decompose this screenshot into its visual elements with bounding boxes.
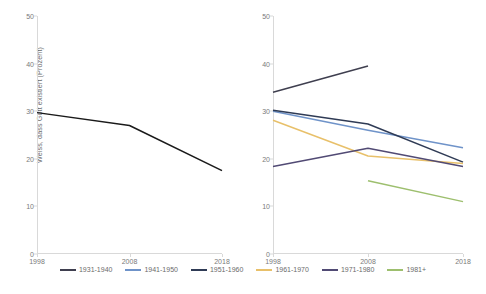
legend-label: 1951-1960	[210, 266, 243, 273]
legend-swatch-icon	[387, 269, 403, 271]
legend-item[interactable]: 1931-1940	[60, 266, 112, 273]
legend-item[interactable]: 1981+	[387, 266, 426, 273]
legend-item[interactable]: 1961-1970	[256, 266, 308, 273]
series-line	[273, 110, 463, 162]
y-tick-label: 40	[262, 60, 270, 67]
legend-label: 1941-1950	[144, 266, 177, 273]
x-tick-label: 1998	[29, 258, 45, 265]
chart-panel-left: Weiss, dass Gott existiert (Prozent) 010…	[0, 0, 243, 262]
y-tick-label: 50	[262, 13, 270, 20]
x-tick-mark	[273, 254, 274, 257]
chart-figure: Weiss, dass Gott existiert (Prozent) 010…	[0, 0, 486, 294]
x-tick-label: 2008	[122, 258, 138, 265]
y-tick-label: 50	[26, 13, 34, 20]
legend-swatch-icon	[60, 269, 76, 271]
chart-legend: 1931-19401941-19501951-19601961-19701971…	[0, 266, 486, 273]
legend-item[interactable]: 1951-1960	[191, 266, 243, 273]
y-tick-label: 30	[26, 108, 34, 115]
y-tick-label: 40	[26, 60, 34, 67]
y-tick-label: 30	[262, 108, 270, 115]
plot-area-right: 01020304050 199820082018	[273, 16, 463, 254]
y-tick-label: 10	[26, 203, 34, 210]
legend-label: 1931-1940	[79, 266, 112, 273]
x-tick-label: 1998	[265, 258, 281, 265]
series-line	[37, 113, 222, 171]
series-layer-right	[273, 16, 463, 254]
x-tick-label: 2008	[360, 258, 376, 265]
x-tick-mark	[130, 254, 131, 257]
series-line	[273, 66, 368, 92]
x-tick-label: 2018	[214, 258, 230, 265]
x-tick-mark	[37, 254, 38, 257]
chart-panel-right: 01020304050 199820082018	[243, 0, 486, 262]
y-tick-label: 20	[26, 155, 34, 162]
legend-swatch-icon	[322, 269, 338, 271]
x-tick-mark	[463, 254, 464, 257]
y-tick-label: 20	[262, 155, 270, 162]
series-line	[368, 181, 463, 202]
legend-label: 1961-1970	[275, 266, 308, 273]
legend-label: 1971-1980	[341, 266, 374, 273]
x-tick-label: 2018	[455, 258, 471, 265]
series-line	[273, 111, 463, 148]
plot-area-left: 01020304050 199820082018	[37, 16, 222, 254]
series-layer-left	[37, 16, 222, 254]
legend-swatch-icon	[125, 269, 141, 271]
y-tick-label: 10	[262, 203, 270, 210]
legend-swatch-icon	[256, 269, 272, 271]
legend-label: 1981+	[406, 266, 426, 273]
legend-swatch-icon	[191, 269, 207, 271]
legend-item[interactable]: 1971-1980	[322, 266, 374, 273]
x-tick-mark	[222, 254, 223, 257]
x-tick-mark	[368, 254, 369, 257]
legend-item[interactable]: 1941-1950	[125, 266, 177, 273]
